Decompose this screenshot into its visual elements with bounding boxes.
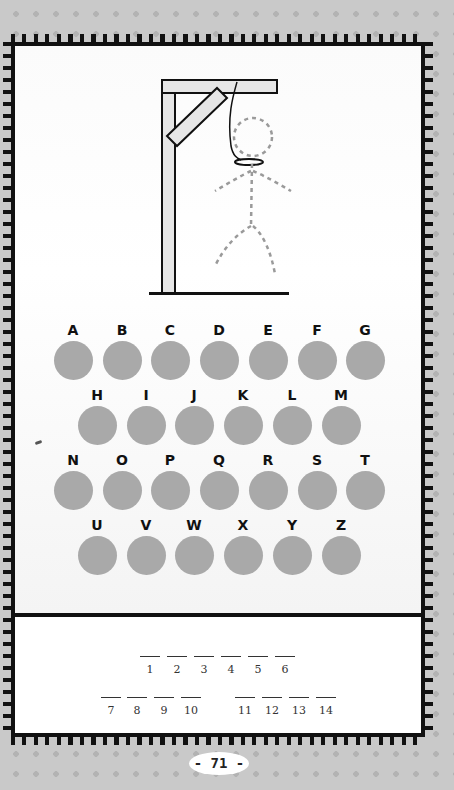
letter-bubble[interactable] [273,536,312,575]
letter-label: P [150,451,190,469]
letter-label: X [223,516,263,534]
letter-bubble[interactable] [273,406,312,445]
gallows-post [162,80,175,293]
letter-G[interactable]: G [345,321,385,380]
letter-label: B [102,321,142,339]
letter-bubble[interactable] [224,536,263,575]
letter-label: L [272,386,312,404]
letter-label: W [174,516,214,534]
letter-I[interactable]: I [126,386,166,445]
letter-bubble[interactable] [298,471,337,510]
letter-bubble[interactable] [54,471,93,510]
figure-left-arm [215,171,251,191]
letter-F[interactable]: F [297,321,337,380]
blank-number: 4 [228,663,235,676]
letter-bubble[interactable] [175,406,214,445]
letter-O[interactable]: O [102,451,142,510]
letter-bubble[interactable] [103,341,142,380]
answer-blank-14[interactable]: 14 [316,697,336,717]
letter-bubble[interactable] [151,341,190,380]
letter-U[interactable]: U [77,516,117,575]
blank-number: 5 [255,663,262,676]
letter-Q[interactable]: Q [199,451,239,510]
answer-panel [15,617,421,733]
letter-row-4: U V W X Y Z [0,516,454,586]
letter-P[interactable]: P [150,451,190,510]
letter-bubble[interactable] [298,341,337,380]
letter-C[interactable]: C [150,321,190,380]
blank-number: 9 [161,704,168,717]
letter-K[interactable]: K [223,386,263,445]
blank-number: 8 [134,704,141,717]
letter-label: N [53,451,93,469]
answer-blank-7[interactable]: 7 [101,697,121,717]
letter-bubble[interactable] [151,471,190,510]
answer-blank-5[interactable]: 5 [248,656,268,676]
letter-V[interactable]: V [126,516,166,575]
letter-X[interactable]: X [223,516,263,575]
letter-A[interactable]: A [53,321,93,380]
letter-bubble[interactable] [200,471,239,510]
answer-blank-12[interactable]: 12 [262,697,282,717]
letter-bubble[interactable] [224,406,263,445]
letter-bubble[interactable] [200,341,239,380]
blank-number: 11 [238,704,252,717]
letter-T[interactable]: T [345,451,385,510]
letter-bubble[interactable] [249,341,288,380]
noose-icon [235,159,263,165]
blank-number: 2 [174,663,181,676]
letter-bubble[interactable] [249,471,288,510]
letter-J[interactable]: J [174,386,214,445]
letter-bubble[interactable] [78,406,117,445]
figure-right-arm [253,171,291,191]
frame-teeth-bottom [11,737,425,745]
letter-label: F [297,321,337,339]
letter-S[interactable]: S [297,451,337,510]
answer-blank-1[interactable]: 1 [140,656,160,676]
letter-M[interactable]: M [321,386,361,445]
answer-blank-11[interactable]: 11 [235,697,255,717]
letter-H[interactable]: H [77,386,117,445]
letter-D[interactable]: D [199,321,239,380]
blank-line [181,697,201,698]
answer-blank-13[interactable]: 13 [289,697,309,717]
letter-label: T [345,451,385,469]
letter-bubble[interactable] [78,536,117,575]
letter-W[interactable]: W [174,516,214,575]
letter-label: D [199,321,239,339]
figure-body [251,164,252,226]
letter-label: H [77,386,117,404]
letter-bubble[interactable] [346,471,385,510]
letter-bubble[interactable] [346,341,385,380]
answer-blank-2[interactable]: 2 [167,656,187,676]
letter-E[interactable]: E [248,321,288,380]
letter-Z[interactable]: Z [321,516,361,575]
letter-label: A [53,321,93,339]
letter-bubble[interactable] [175,536,214,575]
answer-blank-9[interactable]: 9 [154,697,174,717]
letter-bubble[interactable] [103,471,142,510]
answer-blank-10[interactable]: 10 [181,697,201,717]
letter-row-1: A B C D E F G [0,321,454,391]
letter-bubble[interactable] [322,536,361,575]
letter-B[interactable]: B [102,321,142,380]
answer-blank-8[interactable]: 8 [127,697,147,717]
letter-label: I [126,386,166,404]
letter-label: U [77,516,117,534]
letter-Y[interactable]: Y [272,516,312,575]
blank-line [221,656,241,657]
answer-blank-4[interactable]: 4 [221,656,241,676]
letter-bubble[interactable] [127,406,166,445]
letter-bubble[interactable] [54,341,93,380]
figure-right-leg [253,226,275,274]
answer-blank-6[interactable]: 6 [275,656,295,676]
blank-line [235,697,255,698]
letter-R[interactable]: R [248,451,288,510]
gallows-illustration [145,76,315,306]
answer-blank-3[interactable]: 3 [194,656,214,676]
letter-bubble[interactable] [127,536,166,575]
letter-N[interactable]: N [53,451,93,510]
letter-L[interactable]: L [272,386,312,445]
letter-bubble[interactable] [322,406,361,445]
blank-line [275,656,295,657]
